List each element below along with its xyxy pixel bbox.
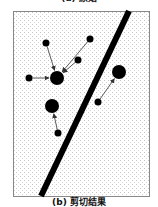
small-point — [95, 99, 102, 106]
small-point — [43, 40, 50, 47]
large-point — [112, 65, 126, 79]
small-point — [87, 36, 94, 43]
small-point — [75, 57, 82, 64]
large-point — [45, 99, 59, 113]
large-point — [50, 71, 64, 85]
bottom-caption: (b) 剪切结果 — [0, 197, 158, 207]
small-point — [55, 130, 62, 137]
clipping-diagram — [0, 0, 158, 207]
small-point — [26, 75, 33, 82]
